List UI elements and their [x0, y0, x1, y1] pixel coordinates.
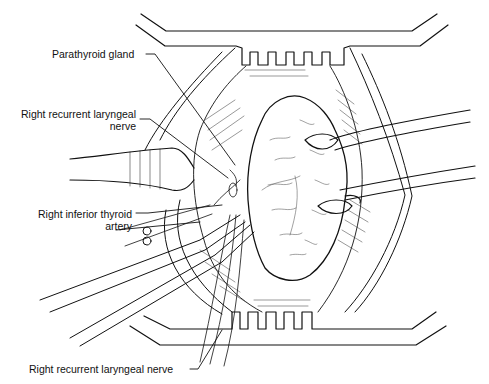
label-line-1: Right inferior thyroid [10, 208, 132, 220]
left-retractor-handle [70, 148, 194, 191]
leader-lines [116, 54, 235, 369]
thyroid-lobe [248, 96, 347, 280]
label-line-2: artery [10, 220, 132, 232]
bottom-retractor [130, 312, 446, 345]
label-line-2: nerve [12, 120, 136, 132]
label-parathyroid-gland: Parathyroid gland [52, 48, 134, 60]
label-right-recurrent-laryngeal-nerve-top: Right recurrent laryngeal nerve [12, 108, 136, 132]
muscle-hatching [200, 70, 370, 306]
top-retractor [136, 14, 448, 65]
label-right-recurrent-laryngeal-nerve-bottom: Right recurrent laryngeal nerve [29, 363, 173, 375]
incision-edges [145, 48, 412, 314]
upper-right-forceps [305, 110, 470, 150]
label-line-1: Right recurrent laryngeal [12, 108, 136, 120]
lower-right-forceps [318, 166, 475, 214]
nerve-vessel-lines [200, 170, 244, 366]
label-right-inferior-thyroid-artery: Right inferior thyroid artery [10, 208, 132, 232]
operative-field [194, 66, 363, 312]
